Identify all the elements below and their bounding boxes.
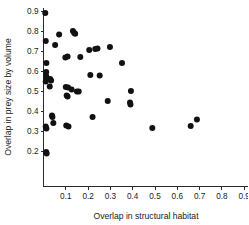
x-tick-label: 0.5 [149, 192, 161, 201]
data-point [97, 72, 103, 78]
x-tick-label: 0.9 [239, 192, 248, 201]
x-tick-label: 0.1 [60, 192, 72, 201]
data-point [43, 38, 49, 44]
data-point [69, 86, 75, 92]
data-point [76, 88, 82, 94]
plot-canvas: 0.20.30.40.50.60.70.80.9 0.10.20.30.40.5… [0, 0, 248, 225]
data-point [43, 60, 49, 66]
x-axis: 0.10.20.30.40.50.60.70.80.9 [44, 187, 249, 201]
y-axis-title: Overlap in prey size by volume [3, 38, 13, 156]
data-point [49, 114, 55, 120]
data-point [52, 42, 58, 48]
x-tick-label: 0.4 [127, 192, 139, 201]
data-point [65, 94, 71, 100]
data-point [87, 72, 93, 78]
data-point [86, 47, 92, 53]
data-point [42, 10, 48, 16]
data-point [119, 60, 125, 66]
x-tick-label: 0.2 [82, 192, 94, 201]
data-point [77, 54, 83, 60]
scatter-plot-figure: 0.20.30.40.50.60.70.80.9 0.10.20.30.40.5… [0, 0, 248, 225]
data-point [50, 120, 56, 126]
data-point [47, 84, 53, 90]
data-point [127, 102, 133, 108]
data-point [48, 77, 54, 83]
data-point [94, 46, 100, 52]
data-point [149, 125, 155, 131]
data-points-layer [42, 10, 200, 156]
data-point [105, 98, 111, 104]
x-tick-label: 0.3 [105, 192, 117, 201]
data-point [65, 124, 71, 130]
data-point [44, 150, 50, 156]
data-point [107, 44, 113, 50]
x-axis-title: Overlap in structural habitat [93, 211, 199, 221]
y-tick-label: 0.2 [27, 147, 39, 156]
y-tick-label: 0.3 [27, 127, 39, 136]
data-point [43, 126, 49, 132]
data-point [194, 116, 200, 122]
data-point [65, 54, 71, 60]
y-tick-label: 0.9 [27, 7, 39, 16]
x-tick-label: 0.7 [194, 192, 206, 201]
x-tick-label: 0.8 [216, 192, 228, 201]
y-tick-label: 0.7 [27, 47, 39, 56]
y-tick-label: 0.8 [27, 27, 39, 36]
y-tick-label: 0.5 [27, 87, 39, 96]
data-point [90, 114, 96, 120]
data-point [72, 31, 78, 37]
y-axis: 0.20.30.40.50.60.70.80.9 [27, 7, 43, 187]
data-point [56, 32, 62, 38]
data-point [128, 88, 134, 94]
y-tick-label: 0.6 [27, 67, 39, 76]
data-point [188, 123, 194, 129]
x-tick-label: 0.6 [172, 192, 184, 201]
y-tick-label: 0.4 [27, 107, 39, 116]
